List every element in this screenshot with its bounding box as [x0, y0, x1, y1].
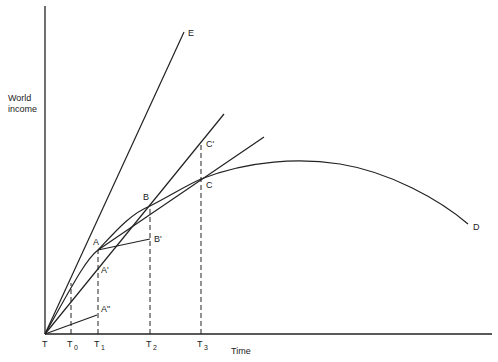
label-A-dprime: A" [101, 304, 110, 314]
y-axis-label-line2: income [8, 104, 37, 114]
label-E: E [188, 28, 194, 38]
svg-text:T: T [146, 339, 152, 349]
svg-text:1: 1 [101, 344, 105, 351]
svg-text:3: 3 [204, 344, 208, 351]
tick-T0: T 0 [67, 339, 78, 351]
tick-T1: T 1 [94, 339, 105, 351]
label-A: A [93, 237, 99, 247]
tick-T2: T 2 [146, 339, 157, 351]
svg-text:T: T [42, 339, 48, 349]
svg-text:0: 0 [74, 344, 78, 351]
svg-text:T: T [67, 339, 73, 349]
svg-text:T: T [94, 339, 100, 349]
line-TE [45, 32, 184, 334]
tick-T: T [42, 339, 48, 349]
tick-T3: T 3 [197, 339, 208, 351]
line-AC [98, 137, 264, 250]
svg-text:2: 2 [153, 344, 157, 351]
line-TC-prime [45, 114, 224, 334]
label-C: C [206, 180, 213, 190]
svg-text:T: T [197, 339, 203, 349]
diagram-canvas: E C' C B B' A A' A" D World income Time … [0, 0, 498, 362]
x-axis-label: Time [231, 346, 251, 356]
y-axis-label-line1: World [8, 93, 31, 103]
label-D: D [473, 222, 480, 232]
label-B-prime: B' [154, 234, 162, 244]
label-B: B [143, 192, 149, 202]
label-C-prime: C' [206, 139, 214, 149]
label-A-prime: A' [101, 265, 109, 275]
